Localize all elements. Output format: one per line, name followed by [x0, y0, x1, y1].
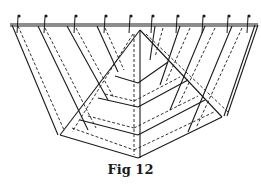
fold-line	[138, 80, 188, 107]
hidden-fold-line	[45, 28, 96, 128]
fold-line	[80, 120, 138, 135]
fold-line	[98, 98, 138, 107]
fold-line	[60, 135, 138, 158]
hidden-fold-line	[134, 96, 198, 128]
fold-line	[12, 25, 58, 135]
figure-container: Fig 12	[0, 0, 261, 186]
hidden-fold-line	[196, 28, 242, 128]
hidden-fold-line	[76, 28, 114, 98]
hidden-fold-line	[72, 34, 133, 132]
fold-line	[38, 26, 88, 130]
fold-line	[115, 76, 138, 83]
fold-line	[160, 26, 180, 85]
figure-caption: Fig 12	[0, 162, 261, 177]
hidden-fold-line	[105, 94, 134, 101]
fold-line	[138, 117, 222, 158]
fold-line	[227, 25, 258, 116]
hidden-fold-line	[146, 34, 228, 112]
fold-line	[224, 25, 255, 116]
fold-line	[138, 62, 168, 83]
hidden-fold-line	[18, 26, 64, 130]
fig-12-line-drawing	[0, 0, 261, 186]
fold-line	[188, 26, 232, 132]
